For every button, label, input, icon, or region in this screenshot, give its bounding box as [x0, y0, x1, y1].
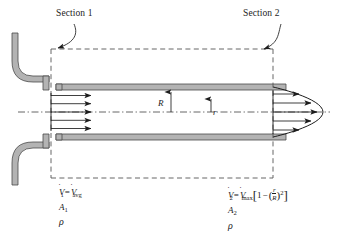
outlet-max-subscript: max — [241, 194, 252, 201]
outlet-equation-group: V̇2=V̇max[1−(rR)2] A2 ρ — [228, 186, 288, 232]
upper-inlet-lip — [43, 76, 49, 90]
inlet-area-subscript: 1 — [65, 206, 68, 213]
outlet-one: 1 — [257, 190, 262, 200]
inlet-density-symbol: ρ — [59, 216, 64, 227]
radius-dimension-arrows — [171, 92, 211, 112]
inlet-equation-group: V̇1=V̇avg A1 ρ — [59, 186, 82, 229]
inlet-avg-subscript: avg — [72, 191, 82, 198]
lower-pipe-inlet-lip — [56, 134, 62, 140]
inlet-density-line: ρ — [59, 216, 82, 229]
radius-outer-label: R — [158, 98, 164, 108]
upper-pipe-wall — [56, 84, 286, 90]
upper-pipe-inlet-lip — [56, 84, 62, 90]
outlet-equals-sign: = — [233, 190, 240, 200]
outlet-bracket-close: ] — [283, 188, 287, 203]
inlet-equals-sign: = — [64, 187, 71, 197]
pipe-walls — [12, 33, 286, 185]
outlet-area-line: A2 — [228, 204, 288, 219]
upper-inlet-elbow — [12, 33, 49, 82]
outlet-density-symbol: ρ — [228, 220, 233, 231]
outlet-flow-rate-equation: V̇2=V̇max[1−(rR)2] — [228, 186, 288, 204]
lower-inlet-lip — [43, 134, 49, 148]
section2-label: Section 2 — [243, 8, 280, 18]
outlet-area-subscript: 2 — [234, 209, 237, 216]
outlet-density-line: ρ — [228, 220, 288, 233]
section-leader-lines — [58, 24, 281, 49]
outlet-minus-sign: − — [262, 190, 269, 200]
section2-leader — [264, 24, 281, 49]
lower-pipe-wall — [56, 134, 286, 140]
inlet-area-line: A1 — [59, 201, 82, 216]
radius-inner-label: r — [213, 107, 217, 117]
inlet-flow-rate-equation: V̇1=V̇avg — [59, 186, 82, 201]
inlet-velocity-profile — [51, 93, 91, 131]
control-volume-boundary — [51, 49, 273, 178]
outlet-velocity-profile — [273, 87, 323, 137]
section1-label: Section 1 — [56, 8, 93, 18]
lower-inlet-elbow — [12, 142, 49, 185]
flow-diagram-canvas — [0, 0, 347, 239]
section1-leader — [58, 24, 76, 48]
